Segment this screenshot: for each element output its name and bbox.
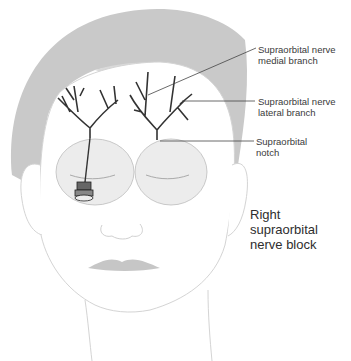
label-lateral-branch: Supraorbital nerve lateral branch [258, 96, 336, 118]
label-supraorbital-notch: Supraorbital notch [256, 136, 307, 158]
right-orbit [56, 139, 134, 205]
label-medial-branch: Supraorbital nerve medial branch [258, 44, 336, 66]
diagram-title: Right supraorbital nerve block [250, 207, 318, 252]
left-orbit [135, 139, 207, 205]
left-ear [21, 164, 42, 235]
